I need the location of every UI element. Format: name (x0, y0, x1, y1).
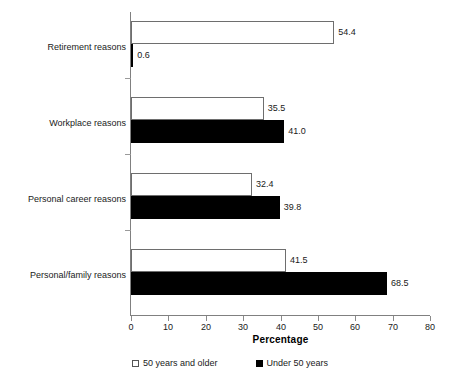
x-axis-tick (355, 316, 356, 321)
filled-square-marker-icon (256, 360, 263, 367)
x-axis-tick-label: 50 (303, 322, 333, 333)
legend-item-50-and-older: 50 years and older (132, 358, 218, 369)
x-axis-tick-label: 60 (340, 322, 370, 333)
x-axis-tick (168, 316, 169, 321)
bar-personal-family-reasons-under-50 (131, 272, 387, 295)
bar-value-label: 68.5 (391, 278, 409, 289)
bar-value-label: 41.0 (288, 126, 306, 137)
plot-area: 54.4 0.6 35.5 41.0 32.4 39.8 41.5 68.5 (131, 12, 430, 315)
x-axis-tick (318, 316, 319, 321)
bar-value-label: 32.4 (256, 179, 274, 190)
category-label-retirement-reasons: Retirement reasons (6, 42, 126, 53)
x-axis-title: Percentage (131, 334, 430, 345)
x-axis-tick (131, 316, 132, 321)
x-axis-tick-label: 80 (415, 322, 445, 333)
x-axis-tick (281, 316, 282, 321)
bar-value-label: 54.4 (338, 27, 356, 38)
x-axis-tick-label: 20 (191, 322, 221, 333)
x-axis-tick-label: 10 (153, 322, 183, 333)
bar-personal-family-reasons-50-and-older (131, 249, 286, 272)
bar-retirement-reasons-50-and-older (131, 21, 334, 44)
x-axis-tick-label: 70 (378, 322, 408, 333)
x-axis-tick (430, 316, 431, 321)
x-axis-tick-label: 0 (116, 322, 146, 333)
bar-personal-career-reasons-50-and-older (131, 173, 252, 196)
open-square-marker-icon (132, 360, 139, 367)
bar-value-label: 35.5 (268, 103, 286, 114)
x-axis-tick-label: 40 (266, 322, 296, 333)
category-label-personal-career-reasons: Personal career reasons (6, 194, 126, 205)
bar-value-label: 39.8 (284, 202, 302, 213)
bar-retirement-reasons-under-50 (131, 44, 133, 67)
legend-item-under-50: Under 50 years (256, 358, 329, 369)
bar-value-label: 41.5 (290, 255, 308, 266)
x-axis-tick (243, 316, 244, 321)
legend-label: 50 years and older (143, 358, 218, 369)
legend-label: Under 50 years (267, 358, 329, 369)
x-axis-tick (206, 316, 207, 321)
bar-workplace-reasons-50-and-older (131, 97, 264, 120)
bar-value-label: 0.6 (137, 50, 150, 61)
category-label-workplace-reasons: Workplace reasons (6, 118, 126, 129)
bar-workplace-reasons-under-50 (131, 120, 284, 143)
bar-personal-career-reasons-under-50 (131, 196, 280, 219)
category-axis-labels: Retirement reasons Workplace reasons Per… (0, 0, 126, 330)
x-axis-tick-label: 30 (228, 322, 258, 333)
x-axis-tick (393, 316, 394, 321)
category-label-personal-family-reasons: Personal/family reasons (6, 270, 126, 281)
chart-legend: 50 years and older Under 50 years (0, 358, 460, 369)
bar-chart-figure: Retirement reasons Workplace reasons Per… (0, 0, 460, 386)
